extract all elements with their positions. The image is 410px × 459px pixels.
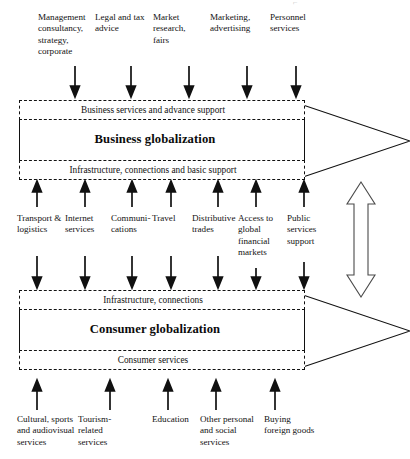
bottom-label-education: Education	[152, 414, 198, 425]
bottom-label-other-personal-and-social-services: Other personal and social services	[200, 414, 254, 448]
bottom-label-buying-foreign-goods: Buying foreign goods	[264, 414, 316, 437]
bottom-label-tourism-related-services: Tourism-related services	[78, 414, 132, 448]
bottom-input-arrows	[0, 0, 410, 459]
bottom-label-cultural-sports-audiovisual: Cultural, sports and audiovisual service…	[17, 414, 77, 448]
diagram-canvas: ⌐ Management consultancy, strategy, corp…	[0, 0, 410, 459]
